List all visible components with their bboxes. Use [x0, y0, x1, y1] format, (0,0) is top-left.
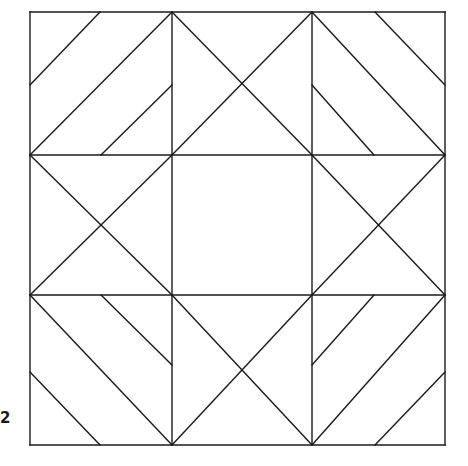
figure-number-label: 2: [0, 408, 22, 428]
figure-root: 2: [0, 0, 468, 466]
canvas-background: [0, 0, 468, 466]
quilt-block-pattern: [0, 0, 468, 466]
